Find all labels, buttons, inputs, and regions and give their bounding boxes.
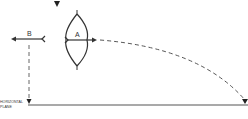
plane-label-line1: HORIZONTAL	[0, 100, 23, 104]
trajectory-path	[100, 40, 245, 100]
arrowhead-b-icon	[11, 37, 16, 42]
arrowhead-a-icon	[92, 38, 97, 43]
arrow-a-label: A	[75, 31, 80, 38]
down-arrow-marker-icon	[54, 1, 60, 7]
arrow-b-label: B	[27, 30, 32, 37]
drop-arrow-icon	[27, 99, 32, 104]
arrow-b: B	[11, 30, 45, 42]
impact-arrow-icon	[242, 99, 248, 104]
projectile-diagram: A B HORIZONTAL PLANE	[0, 0, 248, 119]
arrow-b-fletching-icon	[42, 36, 45, 42]
plane-label-line2: PLANE	[0, 105, 12, 109]
arrow-a: A	[65, 31, 97, 43]
